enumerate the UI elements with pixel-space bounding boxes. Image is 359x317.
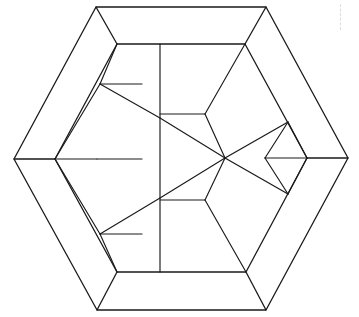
hexagon-dissection-diagram [0,0,359,317]
scanner-dashed-artifact [340,4,343,30]
figure-root [0,0,359,317]
